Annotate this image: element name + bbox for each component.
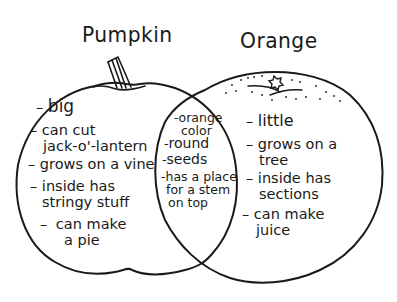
list-item: – can make xyxy=(242,206,324,222)
venn-diagram: Pumpkin Orange – big – can cut jack-o'-l… xyxy=(0,0,397,302)
list-item: -seeds xyxy=(162,153,207,166)
list-item: -round xyxy=(164,137,209,150)
list-item: – can make xyxy=(40,216,126,232)
orange-title: Orange xyxy=(240,30,318,52)
list-item-continuation: tree xyxy=(259,152,288,168)
list-item-continuation: jack-o'-lantern xyxy=(43,138,147,154)
list-item-continuation: on top xyxy=(168,196,208,209)
list-item: – grows on a vine xyxy=(28,156,155,172)
list-item: – can cut xyxy=(30,122,95,138)
list-item-continuation: stringy stuff xyxy=(42,194,129,210)
list-item-continuation: a pie xyxy=(64,232,100,248)
list-item-continuation: sections xyxy=(259,186,319,202)
orange-blossom-end-icon xyxy=(248,76,302,95)
list-item: – big xyxy=(36,98,74,115)
list-item: – little xyxy=(246,113,294,129)
list-item: – inside has xyxy=(30,178,115,194)
pumpkin-title: Pumpkin xyxy=(82,24,173,46)
list-item: – grows on a xyxy=(246,136,337,152)
list-item-continuation: juice xyxy=(256,222,290,238)
list-item: – inside has xyxy=(246,170,331,186)
